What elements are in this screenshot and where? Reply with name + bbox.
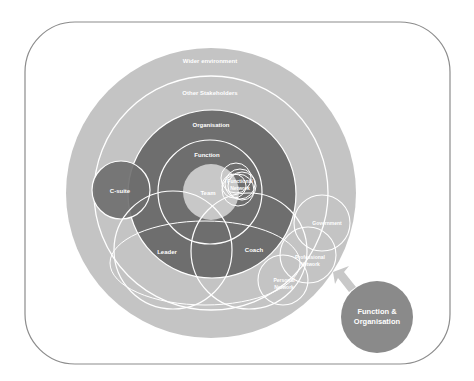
label-function: Function — [194, 152, 220, 158]
label-functional-network-1: Functional — [227, 178, 253, 184]
label-personal-network-2: Network — [274, 284, 294, 290]
label-professional-network-2: Network — [300, 261, 320, 267]
label-team: Team — [200, 190, 215, 196]
label-wider-environment: Wider environment — [183, 58, 237, 64]
label-function-organisation-2: Organisation — [354, 317, 401, 326]
label-government: Government — [312, 220, 342, 226]
stakeholder-diagram: Wider environment Other Stakeholders Org… — [0, 0, 474, 381]
label-function-organisation-1: Function & — [357, 307, 397, 316]
label-personal-network-1: Personal — [273, 277, 295, 283]
label-organisation: Organisation — [192, 122, 229, 128]
label-other-stakeholders: Other Stakeholders — [182, 90, 238, 96]
label-c-suite: C-suite — [110, 188, 131, 194]
label-professional-network-1: Professional — [295, 254, 326, 260]
label-coach: Coach — [245, 247, 264, 253]
label-functional-network-2: Network — [230, 185, 250, 191]
label-leader: Leader — [157, 249, 177, 255]
